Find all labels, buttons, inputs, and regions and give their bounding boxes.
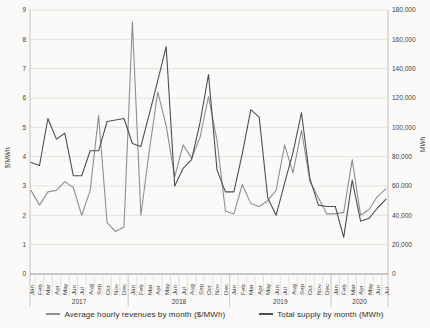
svg-text:Mar: Mar: [44, 284, 51, 295]
svg-text:Apr: Apr: [154, 285, 161, 295]
svg-text:2017: 2017: [72, 298, 87, 305]
svg-text:Jan: Jan: [332, 284, 339, 295]
right-axis-title: MWh: [419, 136, 426, 152]
svg-text:100,000: 100,000: [392, 124, 416, 131]
svg-text:Dec: Dec: [120, 284, 127, 295]
svg-text:Aug: Aug: [290, 283, 297, 295]
svg-text:120,000: 120,000: [392, 94, 416, 101]
svg-text:Mar: Mar: [146, 284, 153, 295]
svg-text:Jul: Jul: [180, 287, 187, 295]
svg-text:Oct: Oct: [306, 285, 313, 295]
svg-text:1: 1: [22, 241, 26, 248]
svg-text:Dec: Dec: [222, 284, 229, 295]
svg-text:2: 2: [22, 212, 26, 219]
svg-text:Mar: Mar: [247, 284, 254, 295]
svg-text:Aug: Aug: [188, 283, 195, 295]
svg-text:May: May: [163, 282, 170, 295]
legend-label-revenues: Average hourly revenues by month ($/MWh): [64, 310, 225, 319]
svg-text:Dec: Dec: [323, 284, 330, 295]
svg-text:Feb: Feb: [36, 284, 43, 295]
chart-generated: 00120,000240,000360,000480,0005100,00061…: [22, 6, 416, 307]
svg-text:80,000: 80,000: [392, 153, 412, 160]
svg-text:Aug: Aug: [87, 283, 94, 295]
svg-text:60,000: 60,000: [392, 182, 412, 189]
svg-text:180,000: 180,000: [392, 6, 416, 13]
chart-svg: 00120,000240,000360,000480,0005100,00061…: [0, 0, 430, 328]
svg-text:7: 7: [22, 65, 26, 72]
revenues-line-swatch: [46, 313, 60, 315]
svg-text:6: 6: [22, 94, 26, 101]
svg-text:4: 4: [22, 153, 26, 160]
svg-text:Apr: Apr: [357, 285, 364, 295]
svg-text:Jun: Jun: [273, 284, 280, 295]
svg-text:Jan: Jan: [129, 284, 136, 295]
legend-item-revenues: Average hourly revenues by month ($/MWh): [46, 310, 225, 319]
dual-axis-line-chart: 00120,000240,000360,000480,0005100,00061…: [0, 0, 430, 328]
svg-text:140,000: 140,000: [392, 65, 416, 72]
svg-text:0: 0: [22, 270, 26, 277]
svg-text:Jul: Jul: [78, 287, 85, 295]
svg-text:Apr: Apr: [256, 285, 263, 295]
svg-text:Jul: Jul: [383, 287, 390, 295]
svg-text:Nov: Nov: [213, 283, 220, 295]
svg-text:Jun: Jun: [70, 284, 77, 295]
svg-text:3: 3: [22, 182, 26, 189]
svg-text:Jan: Jan: [230, 284, 237, 295]
svg-text:Nov: Nov: [112, 283, 119, 295]
svg-text:Oct: Oct: [205, 285, 212, 295]
legend-item-supply: Total supply by month (MWh): [259, 310, 383, 319]
svg-text:Jun: Jun: [374, 284, 381, 295]
svg-text:Feb: Feb: [239, 284, 246, 295]
svg-text:Feb: Feb: [137, 284, 144, 295]
svg-text:Jul: Jul: [281, 287, 288, 295]
svg-text:160,000: 160,000: [392, 36, 416, 43]
svg-text:Jan: Jan: [28, 284, 35, 295]
left-axis-title: $/MWh: [4, 147, 11, 168]
svg-text:Sep: Sep: [197, 283, 204, 295]
svg-text:Mar: Mar: [349, 284, 356, 295]
chart-legend: Average hourly revenues by month ($/MWh)…: [0, 305, 430, 323]
svg-text:Jun: Jun: [171, 284, 178, 295]
svg-text:May: May: [61, 282, 68, 295]
svg-text:May: May: [264, 282, 271, 295]
svg-text:Feb: Feb: [340, 284, 347, 295]
svg-text:5: 5: [22, 124, 26, 131]
svg-text:8: 8: [22, 36, 26, 43]
svg-text:20,000: 20,000: [392, 241, 412, 248]
svg-text:May: May: [366, 282, 373, 295]
svg-text:9: 9: [22, 6, 26, 13]
svg-text:Sep: Sep: [95, 283, 102, 295]
svg-text:Nov: Nov: [315, 283, 322, 295]
legend-label-supply: Total supply by month (MWh): [277, 310, 383, 319]
svg-text:Apr: Apr: [53, 285, 60, 295]
svg-text:40,000: 40,000: [392, 212, 412, 219]
svg-text:Oct: Oct: [104, 285, 111, 295]
svg-text:2019: 2019: [273, 298, 288, 305]
svg-text:Sep: Sep: [298, 283, 305, 295]
svg-text:2020: 2020: [352, 298, 367, 305]
svg-text:0: 0: [392, 270, 396, 277]
supply-line-swatch: [259, 313, 273, 315]
svg-text:2018: 2018: [172, 298, 187, 305]
